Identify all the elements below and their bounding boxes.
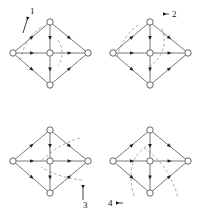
node-top <box>147 127 153 133</box>
edge-center-to-bottom-arrowhead <box>48 68 52 72</box>
node-bottom <box>47 190 53 196</box>
panel-3: 3 <box>0 108 100 216</box>
edge-left-to-center-arrowhead <box>30 159 34 163</box>
panel-3-leader-line-arrowhead <box>81 185 85 188</box>
panel-4-number-label: 4 <box>108 198 113 208</box>
node-top <box>47 19 53 25</box>
panel-2-leader-line-arrowhead <box>163 12 166 16</box>
node-top <box>147 19 153 25</box>
edge-left-to-center-arrowhead <box>30 51 34 55</box>
edge-center-to-bottom-arrowhead <box>148 176 152 180</box>
node-left <box>110 158 116 164</box>
edge-center-to-bottom-arrowhead <box>148 68 152 72</box>
node-left <box>110 50 116 56</box>
edge-top-to-center-arrowhead <box>148 144 152 148</box>
edge-center-to-right-arrowhead <box>68 51 72 55</box>
panel-4-canvas: 4 <box>100 108 200 216</box>
node-right <box>85 50 91 56</box>
node-right <box>85 158 91 164</box>
panel-2: 2 <box>100 0 200 108</box>
panel-2-canvas: 2 <box>100 0 200 108</box>
panel-1: 1 <box>0 0 100 108</box>
panel-2-number-label: 2 <box>172 9 177 19</box>
node-top <box>47 127 53 133</box>
node-bottom <box>47 82 53 88</box>
edge-center-to-right-arrowhead <box>68 159 72 163</box>
node-bottom <box>147 190 153 196</box>
edge-center-to-right-arrowhead <box>168 159 172 163</box>
node-left <box>10 50 16 56</box>
edge-top-to-center-arrowhead <box>48 144 52 148</box>
edge-center-to-bottom-arrowhead <box>48 176 52 180</box>
edge-top-to-center-arrowhead <box>48 36 52 40</box>
edge-top-to-center-arrowhead <box>148 36 152 40</box>
node-left <box>10 158 16 164</box>
node-bottom <box>147 82 153 88</box>
node-right <box>185 158 191 164</box>
panel-4-leader-line-arrowhead <box>116 201 119 205</box>
node-center <box>47 158 53 164</box>
panel-3-arc-lower-right <box>41 167 82 180</box>
panel-1-canvas: 1 <box>0 0 100 108</box>
panel-4: 4 <box>100 108 200 216</box>
panel-1-number-label: 1 <box>30 6 35 16</box>
panel-3-canvas: 3 <box>0 108 100 216</box>
node-center <box>147 50 153 56</box>
edge-left-to-center-arrowhead <box>130 159 134 163</box>
edge-center-to-right-arrowhead <box>168 51 172 55</box>
node-center <box>47 50 53 56</box>
panel-2-arc-center-sweep <box>148 28 164 68</box>
edge-left-to-center-arrowhead <box>130 51 134 55</box>
node-center <box>147 158 153 164</box>
figure-root: 1 2 3 4 <box>0 0 200 216</box>
panel-3-number-label: 3 <box>83 200 88 210</box>
node-right <box>185 50 191 56</box>
